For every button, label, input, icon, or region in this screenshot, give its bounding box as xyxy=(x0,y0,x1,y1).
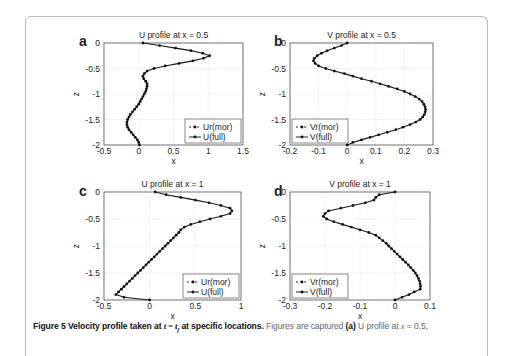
caption-math: t = t xyxy=(164,321,177,331)
data-marker xyxy=(126,121,129,124)
chart-panel-a: -0.500.511.50-0.5-1-1.5-2U profile at x … xyxy=(71,30,249,166)
data-marker xyxy=(156,253,159,256)
data-marker xyxy=(352,204,355,207)
data-marker xyxy=(189,49,192,52)
data-marker xyxy=(144,90,147,93)
x-axis-label: x xyxy=(170,311,175,321)
data-marker xyxy=(394,191,397,194)
legend: Vr(mor)V(full) xyxy=(292,119,348,143)
data-marker xyxy=(128,128,131,131)
data-marker xyxy=(387,245,390,248)
chart-title: V profile at x = 1 xyxy=(329,179,391,189)
data-marker xyxy=(142,266,145,269)
y-axis-label: z xyxy=(71,92,81,96)
data-marker xyxy=(387,85,390,88)
data-marker xyxy=(208,201,211,204)
data-marker xyxy=(129,113,132,116)
y-axis-label: z xyxy=(257,244,267,248)
data-marker xyxy=(341,223,344,226)
data-marker xyxy=(177,231,180,234)
data-marker xyxy=(409,266,412,269)
data-marker xyxy=(403,90,406,93)
data-marker xyxy=(174,47,177,50)
caption-panel-ref: (a) xyxy=(346,321,356,331)
y-tick-label: 0 xyxy=(95,187,100,197)
y-tick-label: -1 xyxy=(92,89,100,99)
data-marker xyxy=(419,118,422,121)
data-marker xyxy=(135,105,138,108)
data-marker xyxy=(386,131,389,134)
x-tick-label: -0.1 xyxy=(311,146,326,156)
data-marker xyxy=(202,57,205,60)
data-marker xyxy=(142,75,145,78)
y-tick-label: -2 xyxy=(278,295,286,305)
x-tick-label: 0.1 xyxy=(424,301,436,311)
y-axis-label: z xyxy=(71,244,81,248)
data-marker xyxy=(340,44,343,47)
y-tick-label: -2 xyxy=(278,140,286,150)
x-tick-label: 0 xyxy=(147,301,152,311)
y-tick-label: -0.5 xyxy=(85,214,100,224)
data-marker xyxy=(142,95,145,98)
data-marker xyxy=(423,113,426,116)
data-marker xyxy=(130,131,133,134)
x-tick-label: -0.2 xyxy=(318,301,333,311)
data-marker xyxy=(192,59,195,62)
x-tick-label: 0 xyxy=(136,146,141,156)
chart-title: V profile at x = 0.5 xyxy=(327,30,396,40)
legend-entry: Vr(mor) xyxy=(310,122,339,132)
data-marker xyxy=(167,242,170,245)
x-tick-label: 0 xyxy=(345,146,350,156)
data-marker xyxy=(414,95,417,98)
data-marker xyxy=(229,207,232,210)
chart-panel-b: -0.2-0.100.10.20.30-0.5-1-1.5-2V profile… xyxy=(257,30,439,166)
legend: Ur(mor)U(full) xyxy=(183,274,239,298)
data-marker xyxy=(352,141,355,144)
data-marker xyxy=(312,59,315,62)
data-marker xyxy=(179,196,182,199)
data-marker xyxy=(123,296,126,299)
y-tick-label: -1 xyxy=(278,241,286,251)
data-marker xyxy=(146,85,149,88)
data-marker xyxy=(137,103,140,106)
x-tick-label: 0.2 xyxy=(398,146,410,156)
caption-text: Figures are captured xyxy=(264,321,346,331)
data-marker xyxy=(409,93,412,96)
data-marker xyxy=(373,199,376,202)
data-marker xyxy=(421,100,424,103)
data-marker xyxy=(409,123,412,126)
data-marker xyxy=(220,204,223,207)
data-marker xyxy=(360,139,363,142)
x-tick-label: 0 xyxy=(393,301,398,311)
data-marker xyxy=(412,269,415,272)
y-tick-label: -1.5 xyxy=(85,268,100,278)
data-marker xyxy=(414,272,417,275)
data-marker xyxy=(209,218,212,221)
data-marker xyxy=(379,82,382,85)
data-marker xyxy=(402,126,405,129)
x-tick-label: -0.1 xyxy=(353,301,368,311)
data-marker xyxy=(394,299,397,302)
data-marker xyxy=(418,280,421,283)
data-marker xyxy=(326,49,329,52)
data-marker xyxy=(164,65,167,68)
data-marker xyxy=(138,144,141,147)
data-marker xyxy=(424,110,427,113)
chart-title: U profile at x = 0.5 xyxy=(139,30,208,40)
data-marker xyxy=(131,110,134,113)
y-tick-label: -1.5 xyxy=(271,268,286,278)
data-marker xyxy=(132,133,135,136)
x-tick-label: 1 xyxy=(239,301,244,311)
data-marker xyxy=(172,237,175,240)
legend-entry: U(full) xyxy=(203,132,226,142)
panel-label: d xyxy=(274,183,283,199)
data-marker xyxy=(417,277,420,280)
y-tick-label: -2 xyxy=(92,140,100,150)
y-tick-label: -1 xyxy=(92,241,100,251)
x-tick-label: 0.5 xyxy=(189,301,201,311)
data-marker xyxy=(359,228,362,231)
caption-text-3: = 0.5, xyxy=(404,321,427,331)
x-tick-label: 0.5 xyxy=(168,146,180,156)
data-marker xyxy=(390,247,393,250)
